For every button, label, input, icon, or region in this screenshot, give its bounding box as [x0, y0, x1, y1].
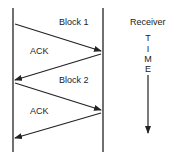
time-letter-t: T — [143, 33, 153, 43]
block2-arrow — [15, 83, 101, 110]
ack2-label: ACK — [30, 106, 49, 116]
time-letter-m: M — [143, 54, 153, 64]
block1-arrow — [15, 24, 101, 51]
ack2-arrow — [15, 113, 101, 138]
time-letter-e: E — [143, 64, 153, 74]
ack1-label: ACK — [30, 46, 49, 56]
receiver-label: Receiver — [130, 17, 166, 27]
block2-label: Block 2 — [59, 75, 89, 85]
block1-label: Block 1 — [59, 17, 89, 27]
time-letter-i: I — [143, 44, 153, 54]
